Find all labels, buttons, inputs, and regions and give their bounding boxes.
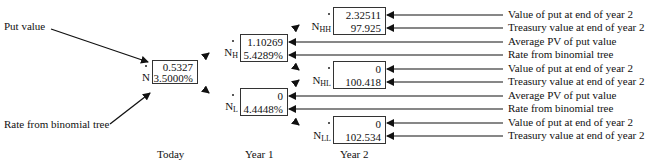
node-nll-put-value: 0 — [376, 118, 382, 131]
node-nhl-label: NHL — [308, 74, 331, 90]
right-label: Rate from binomial tree — [508, 48, 613, 61]
node-nhh-treasury-value: 97.925 — [351, 22, 381, 35]
node-nh-label: NH — [220, 46, 238, 62]
node-dot — [232, 40, 234, 42]
right-label: Average PV of put value — [508, 35, 616, 48]
node-dot — [328, 122, 330, 124]
node-nhl-treasury-value: 100.418 — [345, 76, 381, 89]
time-label-year2: Year 2 — [340, 148, 369, 161]
node-nh-put-value: 1.10269 — [247, 36, 283, 49]
right-label: Treasury value at end of year 2 — [508, 75, 644, 88]
node-nhh-put-value: 2.32511 — [346, 9, 381, 22]
right-label: Treasury value at end of year 2 — [508, 129, 644, 142]
right-label: Treasury value at end of year 2 — [508, 21, 644, 34]
node-nll-box: 0 102.534 — [333, 116, 386, 144]
right-label: Average PV of put value — [508, 89, 616, 102]
node-nhh-label: NHH — [308, 20, 331, 36]
node-nll-label: NLL — [308, 129, 331, 145]
node-nl-rate: 4.4448% — [244, 103, 283, 116]
right-label: Value of put at end of year 2 — [508, 116, 633, 129]
time-label-year1: Year 1 — [245, 148, 274, 161]
node-n-label: N — [140, 71, 150, 84]
node-nh-rate: 5.4289% — [244, 49, 283, 62]
node-nl-label: NL — [220, 100, 238, 116]
node-dot — [145, 65, 147, 67]
node-nh-box: 1.10269 5.4289% — [240, 34, 288, 62]
put-value-label: Put value — [4, 20, 45, 33]
node-nl-box: 0 4.4448% — [240, 88, 288, 116]
node-nhl-put-value: 0 — [376, 63, 382, 76]
right-label: Value of put at end of year 2 — [508, 62, 633, 75]
right-label: Rate from binomial tree — [508, 102, 613, 115]
node-nhl-box: 0 100.418 — [333, 61, 386, 89]
node-dot — [328, 13, 330, 15]
node-nhh-box: 2.32511 97.925 — [333, 7, 386, 35]
node-nll-treasury-value: 102.534 — [345, 131, 381, 144]
time-label-today: Today — [157, 148, 184, 161]
node-dot — [232, 94, 234, 96]
node-dot — [328, 67, 330, 69]
rate-label: Rate from binomial tree — [4, 118, 109, 131]
node-n-rate: 3.5000% — [154, 72, 193, 85]
node-nl-put-value: 0 — [278, 90, 284, 103]
node-n-box: 0.5327 3.5000% — [152, 60, 198, 84]
right-label: Value of put at end of year 2 — [508, 8, 633, 21]
